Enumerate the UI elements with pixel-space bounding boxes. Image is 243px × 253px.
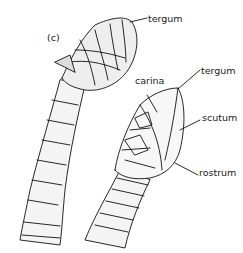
panel-label: (c) — [47, 33, 60, 43]
label-tergum-right: tergum — [201, 66, 236, 76]
label-rostrum: rostrum — [199, 168, 236, 178]
label-tergum-top: tergum — [148, 14, 183, 24]
barnacle-illustration — [0, 0, 243, 253]
leader-rostrum — [175, 163, 198, 175]
leader-tergum-top — [130, 18, 147, 22]
label-carina: carina — [135, 76, 164, 86]
right-capitulum — [115, 88, 184, 179]
leader-tergum-right — [178, 70, 200, 89]
barnacle-diagram: (c) tergum carina tergum scutum rostrum — [0, 0, 243, 253]
label-scutum: scutum — [202, 113, 237, 123]
right-stalk — [85, 170, 150, 248]
